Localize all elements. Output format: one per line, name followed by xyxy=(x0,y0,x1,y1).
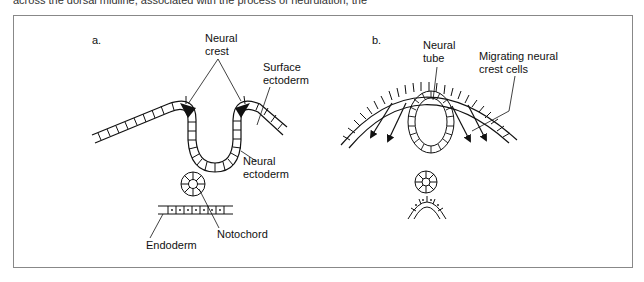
label-neural-ectoderm-line2: ectoderm xyxy=(243,168,289,181)
label-endoderm: Endoderm xyxy=(146,239,197,252)
label-neural-tube: Neural tube xyxy=(423,39,455,65)
label-neural-ectoderm-line1: Neural xyxy=(243,155,289,168)
label-surface-ectoderm: Surface ectoderm xyxy=(263,61,309,87)
endoderm-a-nuclei xyxy=(171,209,221,211)
label-notochord: Notochord xyxy=(217,228,268,241)
label-neural-crest: Neural crest xyxy=(205,32,237,58)
panel-a-label: a. xyxy=(92,34,101,46)
label-migrating-line1: Migrating neural xyxy=(479,50,558,63)
migration-arrows xyxy=(371,103,486,141)
label-migrating-line2: crest cells xyxy=(479,63,558,76)
surface-ectoderm-arc-b xyxy=(341,97,517,148)
label-neural-crest-line1: Neural xyxy=(205,32,237,45)
neural-tube xyxy=(408,91,454,153)
notochord-a xyxy=(181,172,205,196)
label-neural-tube-line2: tube xyxy=(423,52,455,65)
label-neural-crest-line2: crest xyxy=(205,45,237,58)
panel-b-label: b. xyxy=(372,34,381,46)
label-neural-tube-line1: Neural xyxy=(423,39,455,52)
label-surface-ectoderm-line1: Surface xyxy=(263,61,309,74)
label-migrating-neural-crest-cells: Migrating neural crest cells xyxy=(479,50,558,76)
endoderm-b xyxy=(408,196,446,219)
label-surface-ectoderm-line2: ectoderm xyxy=(263,74,309,87)
neural-crest-left-wedge xyxy=(180,103,196,118)
notochord-b xyxy=(415,171,437,193)
surface-ectoderm-arc-cells xyxy=(343,82,510,140)
label-neural-ectoderm: Neural ectoderm xyxy=(243,155,289,181)
